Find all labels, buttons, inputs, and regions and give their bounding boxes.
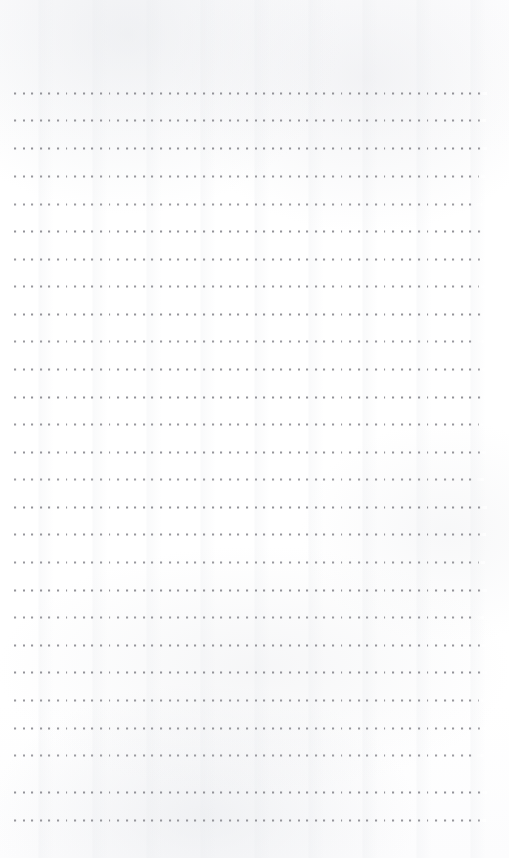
rule-row-fade <box>476 340 484 343</box>
rule-row-dots <box>14 258 480 261</box>
rule-row-dots <box>14 616 478 619</box>
rule-row <box>14 699 479 702</box>
scanned-page <box>0 0 509 858</box>
rule-row <box>14 791 481 794</box>
dotted-rule-grid <box>0 0 509 858</box>
rule-row <box>14 451 480 454</box>
rule-row <box>14 175 479 178</box>
rule-row <box>14 727 480 730</box>
rule-row-dots <box>14 589 481 592</box>
rule-row <box>14 533 480 536</box>
rule-row-fade <box>479 230 487 233</box>
rule-row-dots <box>14 368 480 371</box>
rule-row <box>14 340 478 343</box>
rule-row-fade <box>476 616 484 619</box>
rule-row-fade <box>477 285 485 288</box>
rule-row-dots <box>14 92 481 95</box>
rule-row-fade <box>476 203 484 206</box>
rule-row <box>14 203 478 206</box>
rule-row-fade <box>479 396 487 399</box>
rule-row-fade <box>478 119 486 122</box>
rule-row <box>14 478 478 481</box>
rule-row-dots <box>14 285 479 288</box>
rule-row-dots <box>14 699 479 702</box>
rule-row <box>14 561 479 564</box>
rule-row <box>14 644 480 647</box>
rule-row-fade <box>479 791 487 794</box>
rule-row-fade <box>478 727 486 730</box>
rule-row-fade <box>479 589 487 592</box>
rule-row-dots <box>14 230 481 233</box>
rule-row-dots <box>14 561 479 564</box>
rule-row <box>14 147 481 150</box>
rule-row-dots <box>14 644 480 647</box>
rule-row <box>14 423 479 426</box>
rule-row-dots <box>14 791 481 794</box>
rule-row <box>14 313 481 316</box>
rule-row-fade <box>477 561 485 564</box>
rule-row-fade <box>478 451 486 454</box>
rule-row <box>14 368 480 371</box>
rule-row-dots <box>14 533 480 536</box>
rule-row-dots <box>14 671 481 674</box>
rule-row-dots <box>14 340 478 343</box>
rule-row-dots <box>14 478 478 481</box>
rule-row-fade <box>478 258 486 261</box>
rule-row-fade <box>478 819 486 822</box>
rule-row <box>14 506 481 509</box>
rule-row-fade <box>479 147 487 150</box>
rule-row-fade <box>478 644 486 647</box>
rule-row-fade <box>479 506 487 509</box>
rule-row <box>14 258 480 261</box>
rule-row <box>14 285 479 288</box>
rule-row-dots <box>14 754 478 757</box>
rule-row <box>14 589 481 592</box>
rule-row-fade <box>477 699 485 702</box>
rule-row-fade <box>476 478 484 481</box>
rule-row-fade <box>479 92 487 95</box>
rule-row-fade <box>478 368 486 371</box>
rule-row <box>14 230 481 233</box>
rule-row-dots <box>14 727 480 730</box>
rule-row <box>14 92 481 95</box>
rule-row-dots <box>14 451 480 454</box>
rule-row <box>14 396 481 399</box>
rule-row-dots <box>14 819 480 822</box>
rule-row-fade <box>479 313 487 316</box>
rule-row-dots <box>14 396 481 399</box>
rule-row-dots <box>14 506 481 509</box>
rule-row <box>14 671 481 674</box>
rule-row <box>14 616 478 619</box>
rule-row-dots <box>14 423 479 426</box>
rule-row-fade <box>479 671 487 674</box>
rule-row-dots <box>14 147 481 150</box>
rule-row-fade <box>477 175 485 178</box>
rule-row-fade <box>478 533 486 536</box>
rule-row-dots <box>14 313 481 316</box>
rule-row-dots <box>14 203 478 206</box>
rule-row <box>14 119 480 122</box>
rule-row-dots <box>14 119 480 122</box>
rule-row-fade <box>476 754 484 757</box>
rule-row <box>14 819 480 822</box>
rule-row <box>14 754 478 757</box>
rule-row-dots <box>14 175 479 178</box>
rule-row-fade <box>477 423 485 426</box>
